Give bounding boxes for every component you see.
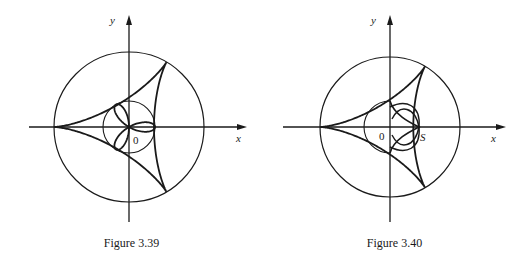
point-s-label: S xyxy=(420,131,426,143)
x-axis-arrow-icon xyxy=(496,124,506,130)
origin-label: 0 xyxy=(379,130,385,142)
x-axis-arrow-icon xyxy=(237,124,247,130)
y-axis-label: y xyxy=(370,14,376,26)
figure-3-39: y x 0 Figure 3.39 xyxy=(0,0,263,255)
y-axis-arrow-icon xyxy=(126,15,132,25)
x-axis-label: x xyxy=(490,132,496,144)
figure-3-39-plot: y x 0 xyxy=(0,0,263,255)
y-axis-arrow-icon xyxy=(387,15,393,25)
figure-caption: Figure 3.39 xyxy=(0,236,263,251)
figure-caption: Figure 3.40 xyxy=(263,236,526,251)
figure-3-40: y x 0 S Figure 3.40 xyxy=(263,0,526,255)
figure-3-40-plot: y x 0 S xyxy=(263,0,526,255)
x-axis-label: x xyxy=(235,132,241,144)
origin-label: 0 xyxy=(133,134,139,146)
y-axis-label: y xyxy=(109,14,115,26)
